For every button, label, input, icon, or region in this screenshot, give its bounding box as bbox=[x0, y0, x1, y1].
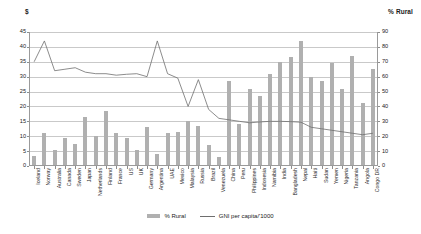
plot-area bbox=[29, 32, 378, 166]
category-label: Bangladesh bbox=[293, 168, 298, 195]
y-tick-label-right: 80 bbox=[382, 44, 406, 50]
category-label: Finland bbox=[108, 168, 113, 185]
category-label: Netherlands bbox=[98, 168, 103, 196]
category-label: Canada bbox=[67, 168, 72, 186]
tick-mark-right bbox=[378, 77, 380, 78]
y-tick-label-left: 20 bbox=[4, 104, 26, 110]
plot-frame bbox=[29, 32, 378, 166]
legend-line-swatch bbox=[200, 216, 215, 217]
y-tick-label-right: 20 bbox=[382, 134, 406, 140]
category-label: UK bbox=[139, 168, 144, 175]
tick-mark-right bbox=[378, 136, 380, 137]
y-tick-label-right: 60 bbox=[382, 74, 406, 80]
category-label: Norway bbox=[46, 168, 51, 186]
chart-container: $ % Rural 051015202530354045 01020304050… bbox=[0, 0, 421, 234]
category-label: Indonesia bbox=[262, 168, 267, 191]
category-label: Japan bbox=[87, 168, 92, 182]
y-tick-label-right: 90 bbox=[382, 29, 406, 35]
category-label: Sudan bbox=[324, 168, 329, 183]
category-label: Russia bbox=[200, 168, 205, 184]
category-label: Haiti bbox=[313, 168, 318, 178]
category-label: UAE bbox=[170, 168, 175, 179]
y-tick-label-right: 10 bbox=[382, 149, 406, 155]
category-label: Yemen bbox=[334, 168, 339, 184]
legend-item-rural: % Rural bbox=[147, 213, 185, 219]
tick-mark-right bbox=[378, 62, 380, 63]
y-tick-label-left: 45 bbox=[4, 29, 26, 35]
category-label: Mexico bbox=[180, 168, 185, 184]
category-label: Argentina bbox=[159, 168, 164, 190]
category-label: Namibia bbox=[272, 168, 277, 187]
left-axis-title: $ bbox=[25, 8, 29, 15]
category-label: Malaysia bbox=[190, 168, 195, 188]
y-tick-label-left: 30 bbox=[4, 74, 26, 80]
legend-line-label: GNI per capita/'1000 bbox=[219, 213, 274, 219]
category-label: Philippines bbox=[252, 168, 257, 193]
legend-item-gni: GNI per capita/'1000 bbox=[200, 213, 274, 219]
y-tick-label-left: 25 bbox=[4, 89, 26, 95]
y-tick-label-right: 70 bbox=[382, 59, 406, 65]
category-label: Venezuela bbox=[221, 168, 226, 192]
tick-mark-right bbox=[378, 106, 380, 107]
category-label: Nigeria bbox=[344, 168, 349, 184]
category-label: France bbox=[118, 168, 123, 184]
chart-legend: % Rural GNI per capita/'1000 bbox=[0, 213, 421, 219]
y-tick-label-left: 15 bbox=[4, 119, 26, 125]
category-label: India bbox=[282, 168, 287, 179]
category-label: Brazil bbox=[211, 168, 216, 181]
category-label: Nepal bbox=[303, 168, 308, 182]
y-tick-label-right: 50 bbox=[382, 89, 406, 95]
tick-mark-right bbox=[378, 92, 380, 93]
category-label: Iceland bbox=[36, 168, 41, 185]
y-tick-label-left: 40 bbox=[4, 44, 26, 50]
y-tick-label-right: 40 bbox=[382, 104, 406, 110]
category-label: Sweden bbox=[77, 168, 82, 187]
category-label: US bbox=[129, 168, 134, 175]
category-label: Germany bbox=[149, 168, 154, 189]
y-tick-label-left: 35 bbox=[4, 59, 26, 65]
y-tick-label-left: 5 bbox=[4, 149, 26, 155]
tick-mark-left bbox=[27, 166, 29, 167]
category-axis-labels: IcelandNorwayAustraliaCanadaSwedenJapanN… bbox=[29, 168, 378, 208]
tick-mark-right bbox=[378, 121, 380, 122]
y-tick-label-left: 10 bbox=[4, 134, 26, 140]
tick-mark-right bbox=[378, 151, 380, 152]
tick-mark-right bbox=[378, 47, 380, 48]
y-tick-label-right: 0 bbox=[382, 163, 406, 169]
category-label: Peru bbox=[241, 168, 246, 179]
category-label: Tanzania bbox=[354, 168, 359, 189]
tick-mark-right bbox=[378, 166, 380, 167]
tick-mark-right bbox=[378, 32, 380, 33]
category-label: Congo DR bbox=[375, 168, 380, 192]
right-axis-title: % Rural bbox=[388, 8, 413, 15]
legend-bar-label: % Rural bbox=[164, 213, 185, 219]
legend-bar-swatch bbox=[147, 214, 160, 218]
category-label: Australia bbox=[57, 168, 62, 188]
category-label: Angola bbox=[365, 168, 370, 184]
y-tick-label-right: 30 bbox=[382, 119, 406, 125]
y-tick-label-left: 0 bbox=[4, 163, 26, 169]
category-label: China bbox=[231, 168, 236, 182]
